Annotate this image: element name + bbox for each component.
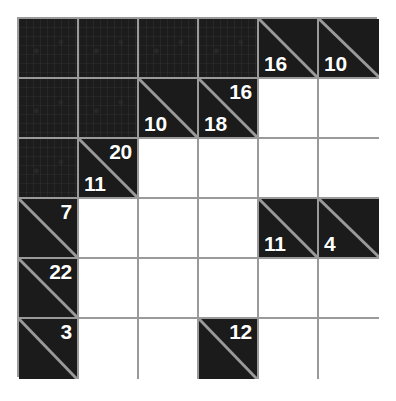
down-clue-r2c3: 10 (144, 113, 167, 134)
clue-cell-r5c1: 22 (19, 259, 79, 319)
entry-cell-r2c5[interactable] (259, 79, 319, 139)
entry-cell-r6c3[interactable] (139, 319, 199, 379)
down-clue-r2c4: 18 (204, 113, 227, 134)
entry-cell-r5c6[interactable] (319, 259, 379, 319)
entry-cell-r3c4[interactable] (199, 139, 259, 199)
clue-cell-r4c6: 4 (319, 199, 379, 259)
entry-cell-r4c4[interactable] (199, 199, 259, 259)
entry-cell-r6c6[interactable] (319, 319, 379, 379)
down-clue-r1c6: 10 (324, 53, 347, 74)
clue-cell-r6c1: 3 (19, 319, 79, 379)
clue-cell-r3c2: 2011 (79, 139, 139, 199)
across-clue-r6c4: 12 (229, 321, 252, 342)
clue-cell-r2c3: 10 (139, 79, 199, 139)
clue-cell-r1c5: 16 (259, 19, 319, 79)
filler-block-r1c2 (79, 19, 139, 79)
entry-cell-r3c5[interactable] (259, 139, 319, 199)
filler-block-r1c1 (19, 19, 79, 79)
down-clue-r3c2: 11 (84, 173, 106, 194)
down-clue-r1c5: 16 (264, 53, 287, 74)
clue-cell-r6c4: 12 (199, 319, 259, 379)
filler-block-r2c1 (19, 79, 79, 139)
down-clue-r4c6: 4 (324, 233, 335, 254)
entry-cell-r5c2[interactable] (79, 259, 139, 319)
entry-cell-r2c6[interactable] (319, 79, 379, 139)
entry-cell-r4c3[interactable] (139, 199, 199, 259)
filler-block-r3c1 (19, 139, 79, 199)
clue-cell-r2c4: 1618 (199, 79, 259, 139)
kakuro-grid: 16101016182011711422312 (17, 17, 377, 377)
across-clue-r2c4: 16 (229, 81, 252, 102)
across-clue-r5c1: 22 (49, 261, 72, 282)
entry-cell-r4c2[interactable] (79, 199, 139, 259)
down-clue-r4c5: 11 (264, 233, 286, 254)
entry-cell-r3c6[interactable] (319, 139, 379, 199)
entry-cell-r5c4[interactable] (199, 259, 259, 319)
entry-cell-r5c5[interactable] (259, 259, 319, 319)
across-clue-r3c2: 20 (109, 141, 132, 162)
clue-cell-r4c5: 11 (259, 199, 319, 259)
entry-cell-r3c3[interactable] (139, 139, 199, 199)
filler-block-r2c2 (79, 79, 139, 139)
entry-cell-r5c3[interactable] (139, 259, 199, 319)
clue-cell-r4c1: 7 (19, 199, 79, 259)
filler-block-r1c4 (199, 19, 259, 79)
entry-cell-r6c2[interactable] (79, 319, 139, 379)
across-clue-r4c1: 7 (61, 201, 72, 222)
entry-cell-r6c5[interactable] (259, 319, 319, 379)
across-clue-r6c1: 3 (61, 321, 72, 342)
filler-block-r1c3 (139, 19, 199, 79)
clue-cell-r1c6: 10 (319, 19, 379, 79)
kakuro-puzzle: 16101016182011711422312 (0, 0, 396, 401)
